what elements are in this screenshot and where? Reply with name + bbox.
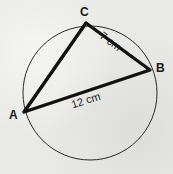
geometry-figure: C B A 7 cm 12 cm — [0, 0, 173, 174]
vertex-label-c: C — [80, 6, 89, 18]
vertex-label-b: B — [156, 62, 165, 74]
vertex-label-a: A — [9, 109, 18, 121]
diagram-canvas — [0, 0, 173, 174]
